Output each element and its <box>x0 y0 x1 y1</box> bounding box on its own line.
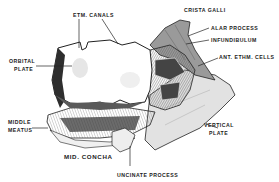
label-mid-concha: MID. CONCHA <box>64 153 113 160</box>
label-etm-canals: ETM. CANALS <box>73 12 114 18</box>
ethmoid-bone-illustration: ETM. CANALS CRISTA GALLI ALAR PROCESS IN… <box>0 0 279 182</box>
label-vertical-plate-2: PLATE <box>209 130 228 136</box>
label-orbital-plate-2: PLATE <box>14 66 33 72</box>
label-ant-ethm-cells: ANT. ETHM. CELLS <box>219 54 275 60</box>
label-middle-meatus-1: MIDDLE <box>8 119 31 125</box>
label-infundibulum: INFUNDIBULUM <box>211 37 257 43</box>
orbital-plate-shape <box>52 40 152 105</box>
leader-alar-process <box>188 28 209 36</box>
label-orbital-plate-1: ORBITAL <box>9 58 35 64</box>
label-uncinate-process: UNCINATE PROCESS <box>117 172 178 178</box>
label-alar-process: ALAR PROCESS <box>211 25 258 31</box>
label-middle-meatus-2: MEATUS <box>8 127 33 133</box>
label-vertical-plate-1: VERTICAL <box>204 122 234 128</box>
label-crista-galli: CRISTA GALLI <box>184 7 226 13</box>
